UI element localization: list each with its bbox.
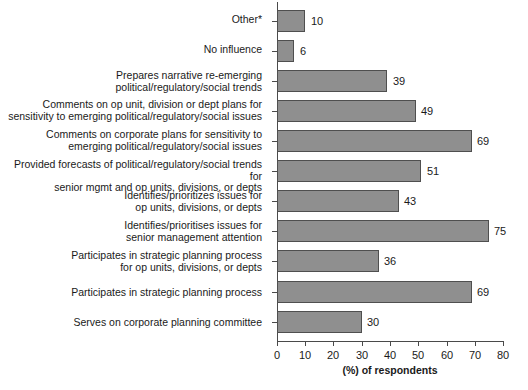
bar-row: 49	[277, 100, 503, 122]
bar-row: 10	[277, 10, 503, 32]
bar[interactable]	[277, 130, 472, 152]
x-axis-tick-label: 10	[290, 349, 320, 361]
x-axis-tick	[277, 341, 278, 346]
bar[interactable]	[277, 311, 362, 333]
bar[interactable]	[277, 250, 379, 272]
bar-value-label: 36	[384, 256, 396, 267]
category-label: Identifies/prioritises issues for senior…	[0, 220, 262, 243]
bar-value-label: 75	[494, 226, 506, 237]
x-axis-tick-label: 20	[318, 349, 348, 361]
x-axis-tick	[418, 341, 419, 346]
category-label: Participates in strategic planning proce…	[0, 250, 262, 273]
bar-row: 75	[277, 220, 503, 242]
x-axis-tick	[362, 341, 363, 346]
bar[interactable]	[277, 220, 489, 242]
bar-value-label: 6	[300, 46, 306, 57]
category-label: No influence	[0, 44, 262, 56]
bar[interactable]	[277, 70, 387, 92]
category-label: Identifies/prioritizes issues for op uni…	[0, 190, 262, 213]
bar-value-label: 43	[404, 196, 416, 207]
bar[interactable]	[277, 160, 421, 182]
bar[interactable]	[277, 281, 472, 303]
bar-row: 51	[277, 160, 503, 182]
category-axis-labels: Other* No influence Prepares narrative r…	[0, 0, 272, 341]
x-axis-tick-label: 40	[375, 349, 405, 361]
x-axis-tick-label: 60	[432, 349, 462, 361]
category-label: Comments on op unit, division or dept pl…	[0, 99, 262, 122]
bar-value-label: 69	[477, 287, 489, 298]
bar-row: 36	[277, 250, 503, 272]
category-label: Other*	[0, 14, 262, 26]
bar-value-label: 30	[367, 317, 379, 328]
x-axis-tick-label: 70	[460, 349, 490, 361]
x-axis-tick	[447, 341, 448, 346]
bar-row: 6	[277, 40, 503, 62]
bar-row: 69	[277, 281, 503, 303]
bar-value-label: 51	[427, 166, 439, 177]
bar[interactable]	[277, 10, 305, 32]
bar-value-label: 10	[311, 16, 323, 27]
x-axis-tick-label: 0	[262, 349, 292, 361]
bar-row: 39	[277, 70, 503, 92]
bar-value-label: 39	[393, 76, 405, 87]
bar-row: 69	[277, 130, 503, 152]
bar-value-label: 49	[421, 106, 433, 117]
x-axis-tick	[390, 341, 391, 346]
category-label: Comments on corporate plans for sensitiv…	[0, 129, 262, 152]
category-label: Serves on corporate planning committee	[0, 317, 262, 329]
bar[interactable]	[277, 40, 294, 62]
bar[interactable]	[277, 190, 399, 212]
x-axis-tick-label: 80	[488, 349, 518, 361]
horizontal-bar-chart: Other* No influence Prepares narrative r…	[0, 0, 528, 390]
bar[interactable]	[277, 100, 416, 122]
bar-row: 30	[277, 311, 503, 333]
x-axis-title: (%) of respondents	[277, 364, 503, 376]
x-axis-tick	[333, 341, 334, 346]
x-axis-tick	[305, 341, 306, 346]
x-axis-tick	[503, 341, 504, 346]
plot-area: 10 6 39 49 69 51 43 75	[277, 0, 503, 341]
x-axis-tick-label: 50	[403, 349, 433, 361]
x-axis-tick-label: 30	[347, 349, 377, 361]
bar-row: 43	[277, 190, 503, 212]
x-axis-tick	[475, 341, 476, 346]
bar-value-label: 69	[477, 136, 489, 147]
category-label: Participates in strategic planning proce…	[0, 287, 262, 299]
category-label: Prepares narrative re-emerging political…	[0, 70, 262, 93]
